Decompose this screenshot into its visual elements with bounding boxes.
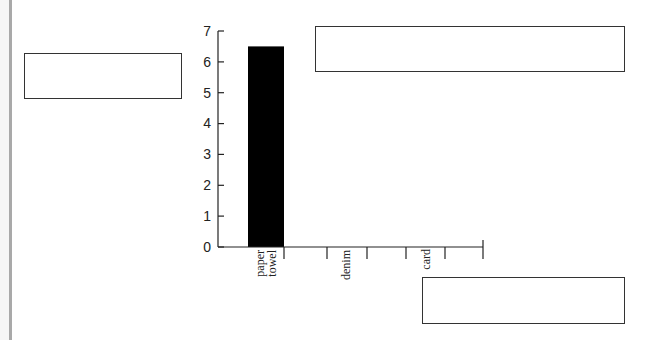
x-ticks <box>284 240 483 259</box>
y-tick-label-1: 1 <box>191 209 211 223</box>
y-tick-label-3: 3 <box>191 147 211 161</box>
y-tick-label-2: 2 <box>191 178 211 192</box>
answer-box-3[interactable] <box>422 277 625 324</box>
y-tick-label-4: 4 <box>191 116 211 130</box>
bar-paper-towel <box>248 46 284 247</box>
y-ticks <box>218 31 224 247</box>
y-tick-label-5: 5 <box>191 86 211 100</box>
y-tick-label-7: 7 <box>191 24 211 38</box>
x-label-card: card <box>420 249 432 275</box>
answer-box-2[interactable] <box>315 26 625 72</box>
x-label-denim: denim <box>340 250 352 284</box>
answer-box-1[interactable] <box>24 53 182 99</box>
x-label-paper-towel: paper towel <box>254 250 278 282</box>
y-tick-label-0: 0 <box>191 240 211 254</box>
y-tick-label-6: 6 <box>191 55 211 69</box>
